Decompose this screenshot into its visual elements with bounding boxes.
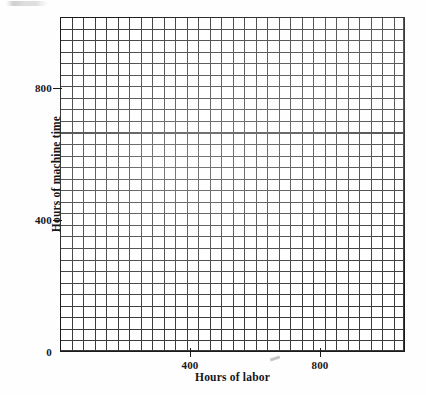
scan-artifact xyxy=(6,1,48,6)
x-tick-label-800: 800 xyxy=(290,360,350,371)
y-tick-label-400: 400 xyxy=(6,215,52,226)
y-axis-title: Hours of machine time xyxy=(50,64,62,284)
x-axis-title: Hours of labor xyxy=(60,371,405,383)
y-tick-label-800: 800 xyxy=(6,83,52,94)
y-axis-title-wrapper: Hours of machine time xyxy=(28,0,29,395)
graph-paper-figure: 800 400 0 400 800 Hours of machine time … xyxy=(0,0,426,395)
plot-grid-area[interactable] xyxy=(60,17,405,352)
y-tick-label-0: 0 xyxy=(6,347,52,358)
x-tick-400 xyxy=(190,348,191,357)
x-tick-800 xyxy=(320,348,321,357)
x-tick-label-400: 400 xyxy=(160,360,220,371)
scan-artifact-secondary xyxy=(270,356,280,362)
